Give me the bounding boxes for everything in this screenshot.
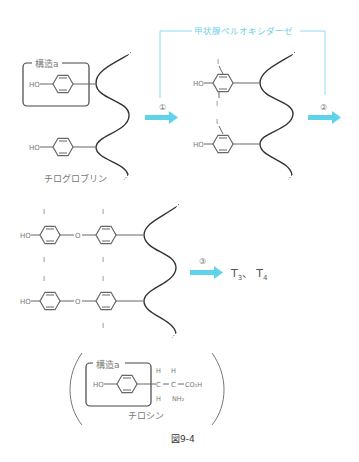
step-2-arrow: ② xyxy=(308,103,341,124)
svg-text:①: ① xyxy=(159,103,166,112)
iodinated-panel: I HO I I HO xyxy=(193,51,296,180)
step-1-arrow: ① xyxy=(145,103,178,124)
svg-text:I: I xyxy=(216,118,218,126)
svg-text:CO₂H: CO₂H xyxy=(185,381,202,389)
tyrosine-label: チロシン xyxy=(128,411,164,421)
svg-text:O: O xyxy=(75,298,81,306)
svg-text:H: H xyxy=(156,367,161,375)
thyroid-hormone-synthesis-diagram: 構造a HO HO チログロブリン 甲状腺ペルオキシダーゼ ① I HO I I xyxy=(0,0,359,462)
step-3-arrow: ③ xyxy=(190,257,223,279)
svg-text:I: I xyxy=(217,58,219,66)
svg-text:I: I xyxy=(43,275,45,283)
svg-text:I: I xyxy=(102,208,104,216)
svg-text:HO: HO xyxy=(193,141,204,149)
svg-text:C: C xyxy=(171,381,176,389)
svg-text:O: O xyxy=(75,232,81,240)
svg-text:C: C xyxy=(156,381,161,389)
svg-text:HO: HO xyxy=(93,381,104,389)
figure-caption: 図9-4 xyxy=(171,434,195,444)
svg-text:I: I xyxy=(102,256,104,264)
thyroglobulin-panel: 構造a HO HO チログロブリン xyxy=(23,51,132,184)
enzyme-label: 甲状腺ペルオキシダーゼ xyxy=(194,26,293,36)
svg-text:HO: HO xyxy=(29,81,40,89)
svg-text:I: I xyxy=(43,256,45,264)
svg-text:I: I xyxy=(102,322,104,330)
svg-text:HO: HO xyxy=(29,144,40,152)
coupled-panel: I HO I O I I I HO O I I xyxy=(20,203,180,338)
svg-text:HO: HO xyxy=(20,232,31,240)
svg-text:NH₂: NH₂ xyxy=(172,395,185,403)
products-label: T3、T4 xyxy=(230,267,268,282)
svg-text:②: ② xyxy=(320,103,327,112)
svg-text:H: H xyxy=(156,395,161,403)
svg-text:③: ③ xyxy=(199,257,206,266)
protein-chain xyxy=(96,55,129,175)
svg-text:HO: HO xyxy=(20,298,31,306)
structure-a-label: 構造a xyxy=(35,58,59,69)
svg-text:HO: HO xyxy=(193,80,204,88)
tyrosine-panel: 構造a HO H C H H C NH₂ CO₂H チロシン xyxy=(70,353,224,425)
svg-text:構造a: 構造a xyxy=(96,359,120,370)
enzyme-bracket: 甲状腺ペルオキシダーゼ xyxy=(160,26,325,98)
thyroglobulin-label: チログロブリン xyxy=(44,173,107,184)
svg-text:T3、T4: T3、T4 xyxy=(230,267,268,282)
svg-text:I: I xyxy=(102,275,104,283)
svg-text:H: H xyxy=(171,367,176,375)
svg-text:I: I xyxy=(43,208,45,216)
svg-text:I: I xyxy=(216,100,218,108)
